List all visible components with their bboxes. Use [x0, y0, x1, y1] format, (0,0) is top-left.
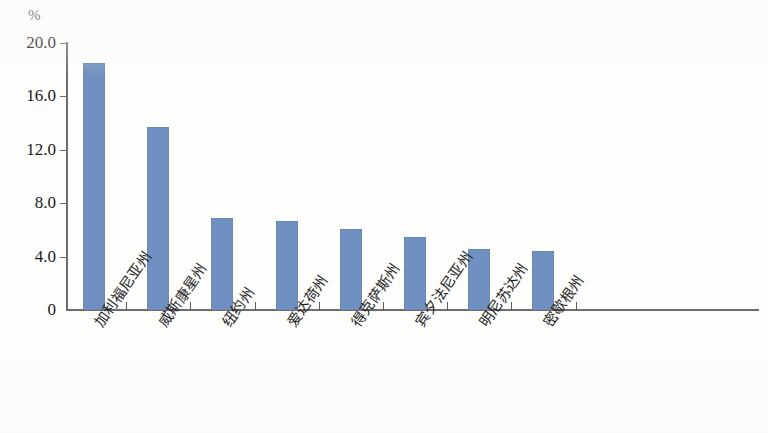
y-axis-tick-label: 4.0 — [0, 248, 56, 265]
y-axis-tick-label: 8.0 — [0, 194, 56, 211]
x-axis-category-labels: 加利福尼亚州威斯康星州纽约州爱达荷州得克萨斯州宾夕法尼亚州明尼苏达州密歇根州 — [0, 310, 768, 433]
y-axis-tick-label: 12.0 — [0, 141, 56, 158]
y-axis-tick-label: 16.0 — [0, 87, 56, 104]
y-axis-tick-label: 20.0 — [0, 34, 56, 51]
bar — [147, 127, 169, 310]
bar — [83, 63, 105, 310]
bar — [276, 221, 298, 310]
bar-chart: % 20.016.012.08.04.00 加利福尼亚州威斯康星州纽约州爱达荷州… — [0, 0, 768, 433]
y-axis-unit-label: % — [28, 8, 41, 23]
bars-container — [67, 43, 758, 310]
